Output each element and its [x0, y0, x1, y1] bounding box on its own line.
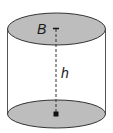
- bottom-center-square: [54, 112, 59, 117]
- cylinder-diagram: B h: [0, 0, 113, 133]
- base-area-label: B: [37, 21, 46, 37]
- height-label: h: [61, 65, 69, 81]
